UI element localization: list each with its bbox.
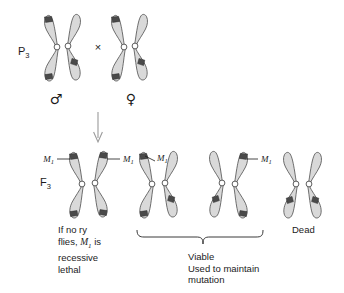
- m1-label-offspring-1-left: M1: [42, 154, 54, 165]
- caption-left-line4: lethal: [58, 264, 81, 275]
- male-parent-chromosome-pair: [44, 14, 80, 81]
- viable-brace: [137, 230, 263, 244]
- m1-label-offspring-1-right: M1: [122, 154, 134, 165]
- caption-dead: Dead: [292, 224, 338, 236]
- centromere: [132, 43, 138, 49]
- offspring-4-chromosome-pair: [283, 152, 321, 218]
- centromere: [121, 44, 127, 50]
- caption-dead-line1: Dead: [292, 224, 315, 235]
- offspring-3-chromosome-pair: [209, 151, 247, 218]
- offspring-1-chromosome-pair: [69, 151, 107, 218]
- caption-recessive-lethal: If no ryflies, M1 isrecessivelethal: [58, 224, 122, 275]
- chromosome-cross-diagram: P3 ♂ × ♀: [0, 0, 344, 293]
- female-parent-chromosome-pair: [111, 14, 147, 81]
- caption-mid-line1: Viable: [188, 251, 214, 262]
- caption-mid-line2: Used to maintain: [188, 263, 259, 274]
- male-sex-symbol: ♂: [50, 91, 63, 107]
- centromere: [65, 43, 71, 49]
- centromere: [92, 180, 98, 186]
- caption-left-line2-post: is: [92, 236, 102, 247]
- m1-label-offspring-2: M1: [156, 153, 168, 164]
- f3-generation-label: F3: [40, 176, 51, 191]
- caption-left-marker: M1: [80, 237, 91, 247]
- generation-arrow: [94, 112, 103, 142]
- centromere: [54, 44, 60, 50]
- centromere: [306, 181, 312, 187]
- centromere: [219, 180, 225, 186]
- caption-left-line3: recessive: [58, 252, 98, 263]
- centromere: [232, 181, 238, 187]
- caption-viable: ViableUsed to maintainmutation: [188, 251, 328, 286]
- centromere: [149, 181, 155, 187]
- centromere: [162, 180, 168, 186]
- cross-symbol: ×: [95, 41, 101, 53]
- p3-generation-label: P3: [18, 45, 30, 60]
- centromere: [79, 181, 85, 187]
- m1-label-offspring-3: M1: [260, 154, 272, 165]
- centromere: [293, 181, 299, 187]
- caption-mid-line3: mutation: [188, 274, 224, 285]
- caption-left-line2-pre: flies,: [58, 236, 80, 247]
- figure-canvas: P3 ♂ × ♀: [0, 0, 344, 293]
- caption-left-line1: If no ry: [58, 224, 87, 235]
- female-sex-symbol: ♀: [126, 91, 136, 107]
